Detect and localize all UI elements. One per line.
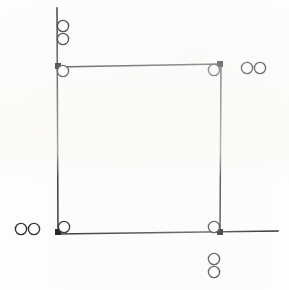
marker-bottom-left-outer-right (28, 223, 39, 234)
diagram-canvas (0, 0, 289, 290)
marker-top-right-corner (208, 64, 219, 75)
marker-top-left-corner (57, 65, 68, 76)
square-diagram (0, 0, 289, 290)
diagram-background (0, 0, 289, 290)
marker-bottom-outer-lower (208, 266, 219, 277)
marker-top-left-outer-upper (57, 20, 68, 31)
marker-bottom-outer-upper (208, 253, 219, 264)
marker-top-left-outer-lower (57, 33, 68, 44)
right-vertical-edge (220, 64, 221, 234)
marker-top-right-outer-left (241, 62, 252, 73)
marker-bottom-right-corner (208, 221, 219, 232)
marker-bottom-left-outer-left (15, 223, 26, 234)
marker-bottom-left-corner (58, 221, 69, 232)
marker-top-right-outer-right (254, 62, 265, 73)
